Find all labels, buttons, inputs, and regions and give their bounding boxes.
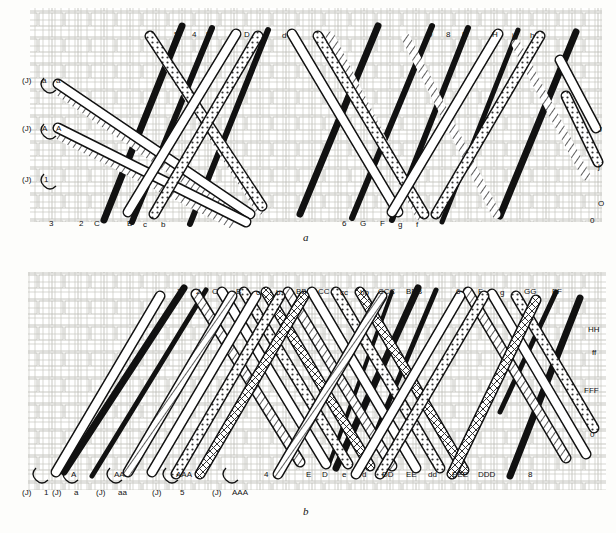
label-a-top-0: 5 — [174, 30, 178, 39]
panel-b-graphic — [0, 262, 616, 524]
label-b-bottom-9: D — [322, 470, 328, 479]
label-b-top-0: 3 — [177, 287, 181, 296]
marker-a-left-0: (J) — [22, 76, 31, 85]
label-b-top-6: BB — [296, 287, 307, 296]
label-b-bottom-7: 4 — [264, 470, 268, 479]
marker-b-left-4: (J) — [212, 488, 221, 497]
label-b-bottom-17: 9 — [508, 470, 512, 479]
label-b-top-3: B — [236, 287, 241, 296]
label-b-bottom-6: 5 — [180, 488, 184, 497]
label-a-bottom-5: b — [161, 220, 165, 229]
marker-b-left-0: (J) — [22, 488, 31, 497]
label-b-bottom-5: AAA — [176, 470, 192, 479]
label-a-bottom-6: 6 — [342, 219, 346, 228]
label-b-bottom-1: A — [71, 470, 76, 479]
label-a-right-1: j — [598, 162, 600, 171]
label-b-top-1: 2 — [196, 287, 200, 296]
panel-b: b — [0, 262, 616, 524]
panel-a: a — [0, 0, 616, 252]
panel-b-caption: b — [303, 505, 309, 517]
label-b-top-11: BBB — [406, 287, 422, 296]
label-b-bottom-18: 8 — [528, 470, 532, 479]
label-b-right-3: 0 — [590, 430, 594, 439]
label-b-bottom-14: dd — [428, 470, 437, 479]
label-b-top-17: FF — [552, 287, 562, 296]
marker-a-left-1: (J) — [22, 124, 31, 133]
label-b-top-15: g — [500, 288, 504, 297]
label-a-bottom-3: B — [127, 219, 132, 228]
label-b-right-1: ff — [592, 348, 596, 357]
label-b-bottom-8: E — [306, 470, 311, 479]
label-b-right-0: HH — [588, 325, 600, 334]
label-b-bottom-4: aa — [118, 488, 127, 497]
label-b-top-13: 6 — [456, 287, 460, 296]
label-a-top-10: i — [512, 31, 514, 40]
label-b-top-14: F — [478, 287, 483, 296]
label-a-top-4: e — [264, 31, 268, 40]
label-a-bottom-10: f — [416, 220, 418, 229]
label-b-right-2: FFF — [584, 386, 599, 395]
label-b-top-16: GG — [524, 287, 536, 296]
label-a-right-2: O — [598, 199, 604, 208]
label-b-left-5: AAA — [232, 488, 248, 497]
marker-a-left-2: (J) — [22, 175, 31, 184]
label-b-top-12: 7 — [434, 287, 438, 296]
label-a-left-3: A — [56, 124, 61, 133]
label-b-bottom-13: EE — [406, 470, 417, 479]
label-a-top-3: D — [244, 30, 250, 39]
label-b-bottom-16: DDD — [478, 470, 495, 479]
label-b-top-9: bb — [360, 288, 369, 297]
label-b-bottom-15: EEE — [452, 470, 468, 479]
marker-b-left-1: (J) — [52, 488, 61, 497]
label-b-top-10: CCC — [378, 287, 395, 296]
label-a-bottom-1: 2 — [79, 219, 83, 228]
marker-b-left-3: (J) — [152, 488, 161, 497]
label-b-bottom-2: a — [74, 488, 78, 497]
label-a-top-11: h — [530, 31, 534, 40]
label-b-top-5: b — [276, 288, 280, 297]
label-b-bottom-3: AA — [114, 470, 125, 479]
figure-root: a 5 4 E D e d 9 8 I H i h 3 2 C B c b 6 … — [0, 0, 616, 533]
label-a-left-2: A — [42, 124, 47, 133]
label-b-bottom-12: DD — [382, 470, 394, 479]
panel-a-graphic — [0, 0, 616, 252]
label-a-top-5: d — [282, 31, 286, 40]
label-a-bottom-8: F — [380, 219, 385, 228]
label-a-left-0: a — [42, 76, 46, 85]
label-b-top-7: CC — [318, 287, 330, 296]
label-a-top-2: E — [206, 30, 211, 39]
label-a-right-0: J — [598, 125, 602, 134]
label-a-top-9: H — [492, 30, 498, 39]
label-b-top-4: c — [256, 288, 260, 297]
label-a-bottom-2: C — [94, 219, 100, 228]
label-a-top-8: I — [462, 30, 464, 39]
label-a-left-4: 1 — [44, 175, 48, 184]
label-b-bottom-0: 1 — [44, 488, 48, 497]
label-a-top-7: 8 — [446, 30, 450, 39]
label-a-bottom-7: G — [360, 219, 366, 228]
label-a-bottom-4: c — [143, 220, 147, 229]
label-b-top-8: cc — [340, 288, 348, 297]
label-a-bottom-11: 0 — [590, 216, 594, 225]
label-a-top-1: 4 — [192, 30, 196, 39]
marker-b-left-2: (J) — [96, 488, 105, 497]
label-b-bottom-11: d — [362, 470, 366, 479]
panel-a-caption: a — [303, 231, 309, 243]
label-b-bottom-10: e — [342, 470, 346, 479]
label-b-top-2: C — [212, 287, 218, 296]
label-a-top-6: 9 — [428, 30, 432, 39]
label-a-bottom-0: 3 — [49, 219, 53, 228]
label-a-left-1: a — [56, 76, 60, 85]
label-a-bottom-9: g — [398, 220, 402, 229]
